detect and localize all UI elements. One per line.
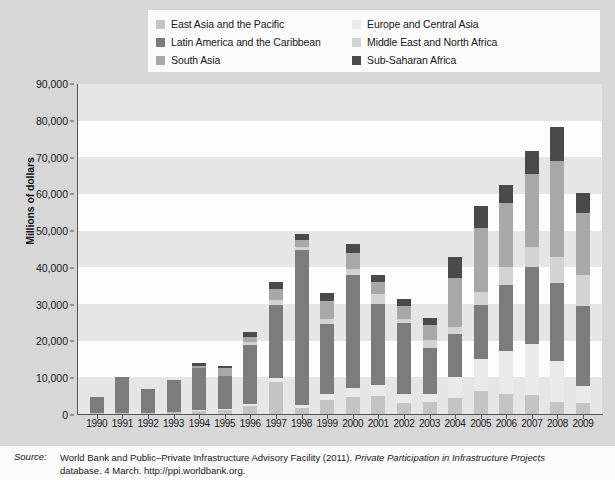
stacked-bar[interactable] — [576, 193, 590, 414]
bar-column-2004[interactable] — [442, 84, 468, 414]
stacked-bar[interactable] — [474, 206, 488, 414]
x-axis-tick-label: 1994 — [186, 418, 212, 434]
x-axis-tick-label: 1998 — [289, 418, 315, 434]
stacked-bar[interactable] — [320, 293, 334, 414]
stacked-bar[interactable] — [269, 282, 283, 414]
bar-column-2007[interactable] — [519, 84, 545, 414]
bar-segment — [448, 278, 462, 327]
y-axis-tick-mark — [70, 415, 74, 416]
bar-column-2003[interactable] — [417, 84, 443, 414]
stacked-bar[interactable] — [90, 397, 104, 414]
x-axis-tick-label: 2002 — [391, 418, 417, 434]
y-axis-tick-label: 40,000 — [36, 262, 68, 274]
y-axis-tick-label: 50,000 — [36, 225, 68, 237]
bar-column-1998[interactable] — [289, 84, 315, 414]
bar-segment — [525, 247, 539, 267]
bar-segment — [371, 304, 385, 385]
stacked-bar[interactable] — [525, 151, 539, 414]
stacked-bar[interactable] — [115, 377, 129, 414]
x-axis-tick-label: 1991 — [110, 418, 136, 434]
stacked-bar[interactable] — [141, 389, 155, 414]
stacked-bar[interactable] — [243, 332, 257, 414]
bar-column-2009[interactable] — [570, 84, 596, 414]
y-axis-tick-mark — [70, 267, 74, 268]
legend-item-label: East Asia and the Pacific — [171, 18, 284, 30]
stacked-bar[interactable] — [499, 185, 513, 414]
legend-item-latin_america_caribbean[interactable]: Latin America and the Caribbean — [156, 33, 352, 51]
legend-item-europe_central_asia[interactable]: Europe and Central Asia — [352, 15, 592, 33]
x-axis-tick-label: 1996 — [238, 418, 264, 434]
legend-swatch-icon — [352, 20, 361, 29]
stacked-bar[interactable] — [397, 299, 411, 414]
y-axis-tick-mark — [70, 84, 74, 85]
bar-segment — [576, 386, 590, 403]
bar-column-2008[interactable] — [545, 84, 571, 414]
bar-segment — [423, 340, 437, 348]
bar-segment — [371, 385, 385, 396]
bar-segment — [141, 389, 155, 412]
bar-segment — [295, 240, 309, 247]
bar-segment — [346, 388, 360, 397]
bar-segment — [448, 398, 462, 415]
bar-segment — [550, 402, 564, 414]
bar-segment — [243, 406, 257, 414]
bar-column-2002[interactable] — [391, 84, 417, 414]
y-axis-tick-mark — [70, 378, 74, 379]
bar-column-2005[interactable] — [468, 84, 494, 414]
legend-item-east_asia_pacific[interactable]: East Asia and the Pacific — [156, 15, 352, 33]
bar-segment — [448, 334, 462, 377]
stacked-bar[interactable] — [192, 363, 206, 414]
legend-item-sub_saharan_africa[interactable]: Sub-Saharan Africa — [352, 51, 592, 69]
x-axis-tick-label: 2007 — [519, 418, 545, 434]
x-axis-tick-labels: 1990199119921993199419951996199719981999… — [78, 418, 602, 434]
legend-item-south_asia[interactable]: South Asia — [156, 51, 352, 69]
x-axis-tick-label: 2004 — [442, 418, 468, 434]
stacked-bar[interactable] — [167, 380, 181, 414]
legend-swatch-icon — [156, 56, 165, 65]
bar-segment — [397, 394, 411, 403]
legend-item-label: Latin America and the Caribbean — [171, 36, 321, 48]
x-axis-tick-label: 2003 — [417, 418, 443, 434]
bar-column-2001[interactable] — [366, 84, 392, 414]
bar-segment — [371, 396, 385, 414]
legend-item-middle_east_north_africa[interactable]: Middle East and North Africa — [352, 33, 592, 51]
stacked-bar[interactable] — [218, 366, 232, 414]
stacked-bar[interactable] — [423, 318, 437, 414]
bar-column-1999[interactable] — [314, 84, 340, 414]
bar-segment — [525, 151, 539, 174]
bar-segment — [269, 305, 283, 378]
bar-column-1996[interactable] — [238, 84, 264, 414]
bar-segment — [269, 282, 283, 289]
source-note: Source: World Bank and Public–Private In… — [0, 446, 615, 480]
bar-column-1991[interactable] — [110, 84, 136, 414]
bar-column-1994[interactable] — [186, 84, 212, 414]
bar-segment — [550, 283, 564, 361]
bar-segment — [295, 250, 309, 405]
bar-segment — [218, 368, 232, 375]
bar-column-2000[interactable] — [340, 84, 366, 414]
bar-column-1992[interactable] — [135, 84, 161, 414]
bar-column-1997[interactable] — [263, 84, 289, 414]
stacked-bar[interactable] — [295, 234, 309, 414]
bar-segment — [243, 345, 257, 404]
stacked-bar[interactable] — [371, 275, 385, 414]
bar-column-1995[interactable] — [212, 84, 238, 414]
y-axis-tick-mark — [70, 341, 74, 342]
bar-segment — [525, 174, 539, 247]
bar-segment — [550, 361, 564, 402]
x-axis-tick-label: 2000 — [340, 418, 366, 434]
bar-column-1990[interactable] — [84, 84, 110, 414]
stacked-bar[interactable] — [448, 257, 462, 414]
bar-segment — [346, 397, 360, 414]
stacked-bar[interactable] — [550, 127, 564, 414]
bar-segment — [474, 359, 488, 391]
chart-legend: East Asia and the PacificEurope and Cent… — [148, 10, 600, 72]
bar-segment — [448, 377, 462, 397]
bar-column-2006[interactable] — [494, 84, 520, 414]
y-axis-tick-label: 90,000 — [36, 78, 68, 90]
y-axis-tick-label: 20,000 — [36, 335, 68, 347]
bar-segment — [550, 161, 564, 257]
bar-segment — [320, 293, 334, 301]
stacked-bar[interactable] — [346, 244, 360, 414]
bar-column-1993[interactable] — [161, 84, 187, 414]
